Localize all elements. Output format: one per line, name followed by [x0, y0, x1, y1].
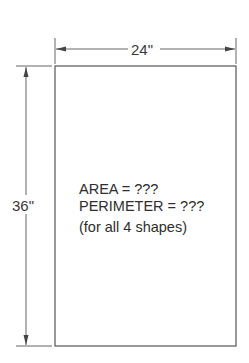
- arrow-left-icon: [56, 47, 66, 52]
- height-dimension-label: 36": [12, 198, 34, 213]
- shape-label-block: AREA = ??? PERIMETER = ??? (for all 4 sh…: [79, 181, 204, 236]
- perimeter-label: PERIMETER = ???: [79, 198, 204, 215]
- arrow-up-icon: [24, 67, 29, 77]
- area-label: AREA = ???: [79, 181, 204, 198]
- arrow-right-icon: [225, 47, 235, 52]
- note-label: (for all 4 shapes): [79, 219, 204, 236]
- width-dimension-label: 24": [131, 42, 153, 57]
- diagram-canvas: 24" 36" AREA = ??? PERIMETER = ??? (for …: [0, 0, 249, 363]
- arrow-down-icon: [24, 335, 29, 345]
